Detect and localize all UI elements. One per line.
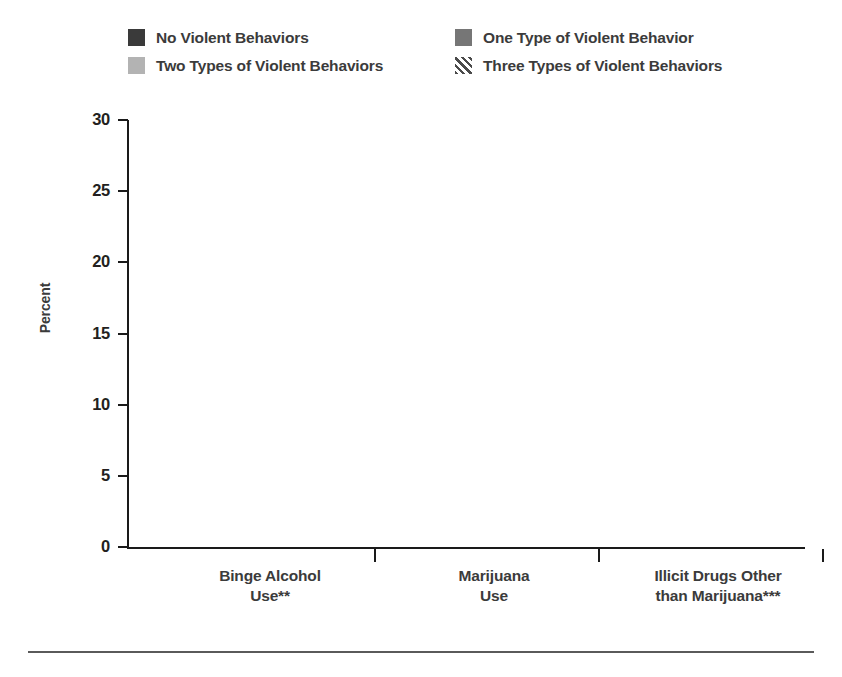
y-axis-line	[127, 120, 129, 549]
footer-divider	[28, 651, 814, 653]
legend-label-series-3: Three Types of Violent Behaviors	[483, 58, 722, 74]
y-axis-tick-label-text: 30	[68, 110, 110, 129]
y-axis-tick	[118, 546, 128, 548]
x-axis-category-label-line: Illicit Drugs Other	[608, 566, 828, 586]
legend-swatch-icon-series-1	[455, 29, 472, 46]
y-axis-tick	[118, 404, 128, 406]
x-axis-category-label-line: Use**	[160, 586, 380, 606]
legend-swatch-icon-series-0	[128, 29, 145, 46]
y-axis-tick-label: 15	[64, 324, 110, 344]
legend-label-series-0: No Violent Behaviors	[156, 30, 309, 46]
chart-figure: No Violent Behaviors One Type of Violent…	[0, 0, 842, 677]
y-axis-tick	[118, 475, 128, 477]
y-axis-tick-label-text: 15	[68, 324, 110, 343]
y-axis-tick-label: 10	[64, 395, 110, 415]
y-axis-tick-label: 0	[64, 537, 110, 557]
x-axis-group-tick	[822, 549, 824, 562]
chart-legend: No Violent Behaviors One Type of Violent…	[128, 28, 788, 86]
legend-swatch-icon-series-3	[455, 57, 472, 74]
legend-item-three-types-of-violent-behaviors: Three Types of Violent Behaviors	[455, 57, 722, 74]
legend-item-one-type-of-violent-behavior: One Type of Violent Behavior	[455, 29, 694, 46]
legend-label-series-1: One Type of Violent Behavior	[483, 30, 694, 46]
x-axis-category-label: Binge AlcoholUse**	[160, 566, 380, 607]
legend-item-two-types-of-violent-behaviors: Two Types of Violent Behaviors	[128, 57, 383, 74]
y-axis-tick-label: 25	[64, 181, 110, 201]
y-axis-tick	[118, 119, 128, 121]
x-axis-category-label: MarijuanaUse	[384, 566, 604, 607]
y-axis-tick-label-text: 10	[68, 395, 110, 414]
y-axis-tick-label-text: 0	[68, 537, 110, 556]
x-axis-group-tick	[374, 549, 376, 562]
legend-swatch-icon-series-2	[128, 57, 145, 74]
legend-item-no-violent-behaviors: No Violent Behaviors	[128, 29, 309, 46]
x-axis-category-label-line: Binge Alcohol	[160, 566, 380, 586]
x-axis-category-label-line: Marijuana	[384, 566, 604, 586]
x-axis-category-label-line: Use	[384, 586, 604, 606]
x-axis-group-tick	[598, 549, 600, 562]
y-axis-tick	[118, 261, 128, 263]
y-axis-tick-label-text: 20	[68, 252, 110, 271]
x-axis-category-label: Illicit Drugs Otherthan Marijuana***	[608, 566, 828, 607]
y-axis-title: Percent	[37, 248, 53, 368]
y-axis-tick-label-text: 25	[68, 181, 110, 200]
y-axis-tick-label: 30	[64, 110, 110, 130]
y-axis-tick-label: 5	[64, 466, 110, 486]
y-axis-tick	[118, 333, 128, 335]
x-axis-line	[127, 547, 805, 549]
y-axis-tick-label: 20	[64, 252, 110, 272]
x-axis-category-label-line: than Marijuana***	[608, 586, 828, 606]
y-axis-tick-label-text: 5	[68, 466, 110, 485]
y-axis-tick	[118, 190, 128, 192]
legend-label-series-2: Two Types of Violent Behaviors	[156, 58, 383, 74]
